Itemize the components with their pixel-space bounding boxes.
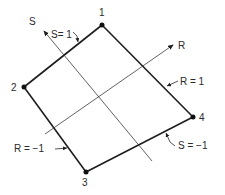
s-equals-minus-1-label: S = −1 <box>178 140 208 151</box>
edge-4-1 <box>102 25 193 117</box>
node-1-label: 1 <box>99 7 105 18</box>
r-axis-label: R <box>178 40 185 51</box>
node-3-label: 3 <box>82 177 88 188</box>
r-equals-1-leader <box>167 81 178 86</box>
s-equals-1-label: S= 1 <box>51 29 72 40</box>
element-edges <box>24 25 193 172</box>
r-equals-minus-1-leader <box>55 148 67 149</box>
edge-3-4 <box>86 117 193 172</box>
quadrilateral-element-diagram: S R 1 2 3 4 S= 1 R = 1 R = −1 S = −1 <box>0 0 225 195</box>
s-axis-label: S <box>29 16 36 27</box>
node-2-label: 2 <box>11 82 17 93</box>
node-2-marker <box>22 85 27 90</box>
node-1-marker <box>100 23 105 28</box>
edge-2-3 <box>24 87 86 172</box>
s-axis <box>44 31 152 161</box>
node-3-marker <box>84 170 89 175</box>
s-equals-minus-1-leader <box>166 133 175 146</box>
s-equals-1-leader <box>73 32 78 42</box>
node-4-label: 4 <box>199 112 205 123</box>
r-equals-minus-1-label: R = −1 <box>14 143 44 154</box>
vertices <box>22 23 196 175</box>
r-axis <box>45 45 173 134</box>
r-equals-1-label: R = 1 <box>180 76 205 87</box>
node-4-marker <box>191 115 196 120</box>
